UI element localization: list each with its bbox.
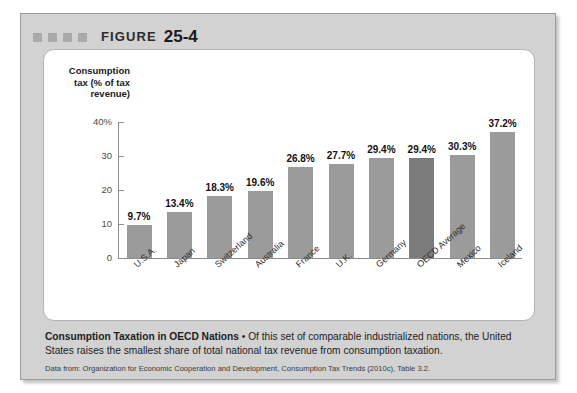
bar-value-label: 29.4% (408, 144, 436, 155)
caption-separator: • (239, 331, 248, 342)
bar-group: 27.7% (321, 150, 361, 258)
bar (329, 164, 354, 258)
decorative-squares-icon (33, 33, 87, 42)
y-axis-tick-label: 10 (72, 218, 112, 229)
bar-value-label: 26.8% (286, 153, 314, 164)
y-axis-tick-label: 0 (72, 252, 112, 263)
bar-value-label: 9.7% (128, 211, 151, 222)
figure-number: 25-4 (164, 27, 198, 47)
bar-value-label: 18.3% (206, 182, 234, 193)
figure-header: FIGURE 25-4 (33, 25, 198, 47)
bar (409, 158, 434, 258)
bar-value-label: 37.2% (488, 118, 516, 129)
bar (288, 167, 313, 258)
figure-caption: Consumption Taxation in OECD Nations • O… (45, 330, 537, 357)
y-axis-tick-label: 40% (72, 116, 112, 127)
figure-panel: FIGURE 25-4 Consumption tax (% of tax re… (20, 13, 556, 380)
bar (369, 158, 394, 258)
bar-value-label: 27.7% (327, 150, 355, 161)
bars-layer: 9.7%13.4%18.3%19.6%26.8%27.7%29.4%29.4%3… (119, 50, 523, 322)
figure-source: Data from: Organization for Economic Coo… (45, 364, 537, 374)
bar-group: 37.2% (483, 118, 523, 258)
bar-value-label: 19.6% (246, 177, 274, 188)
bar-group: 29.4% (402, 144, 442, 258)
figure-root: FIGURE 25-4 Consumption tax (% of tax re… (0, 0, 577, 393)
figure-label: FIGURE (101, 29, 157, 44)
y-axis-tick-label: 20 (72, 184, 112, 195)
chart-card: Consumption tax (% of tax revenue) 01020… (43, 49, 535, 321)
bar-value-label: 13.4% (165, 198, 193, 209)
bar-value-label: 29.4% (367, 144, 395, 155)
y-axis-tick-label: 30 (72, 150, 112, 161)
bar (450, 155, 475, 258)
bar (490, 132, 515, 258)
bar-value-label: 30.3% (448, 141, 476, 152)
caption-lead: Consumption Taxation in OECD Nations (45, 331, 239, 342)
